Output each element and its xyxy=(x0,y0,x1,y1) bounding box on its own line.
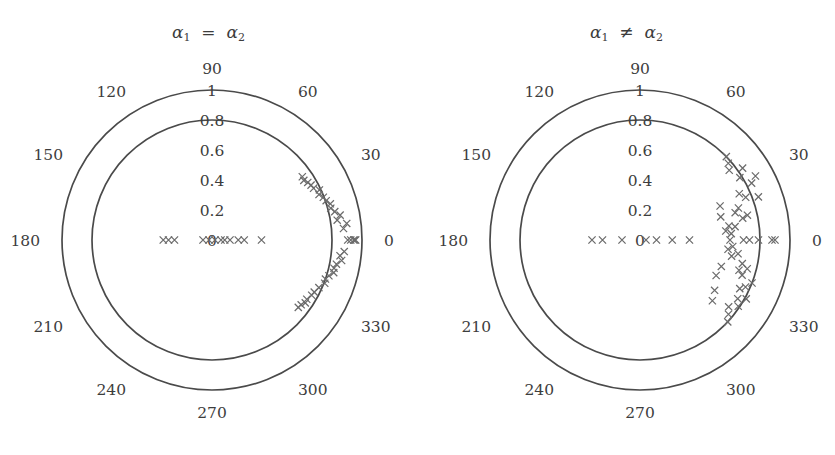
data-point-marker xyxy=(235,236,242,243)
angle-tick-330: 330 xyxy=(789,318,819,336)
radial-tick-0.2: 0.2 xyxy=(628,202,653,220)
angle-tick-90: 90 xyxy=(202,60,222,78)
data-point-marker xyxy=(744,265,751,272)
data-point-marker xyxy=(746,236,753,243)
data-point-marker xyxy=(327,200,334,207)
data-point-marker xyxy=(755,236,762,243)
polar-plot-left-svg: 030609012015018021024027030033000.20.40.… xyxy=(0,0,417,455)
data-point-marker xyxy=(725,311,732,318)
data-point-marker xyxy=(735,204,742,211)
radial-tick-1: 1 xyxy=(207,82,217,100)
data-point-marker xyxy=(740,236,747,243)
angle-tick-270: 270 xyxy=(625,404,655,422)
data-point-marker xyxy=(725,303,732,310)
data-point-marker xyxy=(718,263,725,270)
angle-tick-150: 150 xyxy=(33,146,63,164)
angle-tick-300: 300 xyxy=(298,381,328,399)
radial-tick-1: 1 xyxy=(635,82,645,100)
data-point-marker xyxy=(725,160,732,167)
angle-tick-0: 0 xyxy=(384,232,394,250)
radial-tick-0.6: 0.6 xyxy=(200,142,225,160)
data-point-marker xyxy=(258,236,265,243)
data-point-marker xyxy=(295,304,302,311)
data-point-marker xyxy=(717,213,724,220)
data-point-marker xyxy=(653,236,660,243)
data-point-marker xyxy=(732,209,739,216)
data-point-marker xyxy=(709,297,716,304)
angle-tick-60: 60 xyxy=(298,83,318,101)
scatter-series xyxy=(588,153,778,325)
data-point-marker xyxy=(669,236,676,243)
data-point-marker xyxy=(171,236,178,243)
angle-tick-0: 0 xyxy=(812,232,822,250)
angle-tick-90: 90 xyxy=(630,60,650,78)
polar-panel-right: α1 ≠ α2 03060901201501802102402703003300… xyxy=(418,0,835,455)
radial-tick-0: 0 xyxy=(635,232,645,250)
data-point-marker xyxy=(734,295,741,302)
data-point-marker xyxy=(686,236,693,243)
data-point-marker xyxy=(734,250,741,257)
data-point-marker xyxy=(755,193,762,200)
angle-tick-120: 120 xyxy=(96,83,126,101)
radial-tick-0.2: 0.2 xyxy=(200,202,225,220)
angle-tick-30: 30 xyxy=(361,146,381,164)
radial-tick-0.4: 0.4 xyxy=(200,172,225,190)
radial-tick-0.6: 0.6 xyxy=(628,142,653,160)
angle-tick-240: 240 xyxy=(524,381,554,399)
angle-tick-180: 180 xyxy=(438,232,468,250)
polar-panel-left: α1 = α2 03060901201501802102402703003300… xyxy=(0,0,417,455)
data-point-marker xyxy=(217,236,224,243)
data-point-marker xyxy=(742,283,749,290)
data-point-marker xyxy=(351,236,358,243)
data-point-marker xyxy=(736,285,743,292)
angle-tick-180: 180 xyxy=(10,232,40,250)
angle-tick-210: 210 xyxy=(461,318,491,336)
data-point-marker xyxy=(752,172,759,179)
data-point-marker xyxy=(742,194,749,201)
data-point-marker xyxy=(728,253,735,260)
data-point-marker xyxy=(736,190,743,197)
data-point-marker xyxy=(588,236,595,243)
angle-tick-240: 240 xyxy=(96,381,126,399)
data-point-marker xyxy=(160,236,167,243)
radial-tick-0.8: 0.8 xyxy=(200,112,225,130)
data-point-marker xyxy=(724,318,731,325)
data-point-marker xyxy=(726,236,733,243)
radial-tick-0.8: 0.8 xyxy=(628,112,653,130)
angle-tick-330: 330 xyxy=(361,318,391,336)
angle-tick-60: 60 xyxy=(726,83,746,101)
angle-tick-300: 300 xyxy=(726,381,756,399)
angle-tick-30: 30 xyxy=(789,146,809,164)
angle-tick-150: 150 xyxy=(461,146,491,164)
data-point-marker xyxy=(726,167,733,174)
scatter-series xyxy=(160,173,360,311)
angle-tick-270: 270 xyxy=(197,404,227,422)
data-point-marker xyxy=(618,236,625,243)
data-point-marker xyxy=(599,236,606,243)
data-point-marker xyxy=(723,153,730,160)
data-point-marker xyxy=(739,165,746,172)
data-point-marker xyxy=(226,236,233,243)
data-point-marker xyxy=(711,287,718,294)
data-point-marker xyxy=(713,272,720,279)
polar-scatter-figure: α1 = α2 03060901201501802102402703003300… xyxy=(0,0,835,455)
data-point-marker xyxy=(241,236,248,243)
polar-plot-right-svg: 030609012015018021024027030033000.20.40.… xyxy=(418,0,835,455)
angle-tick-120: 120 xyxy=(524,83,554,101)
data-point-marker xyxy=(716,202,723,209)
radial-tick-0.4: 0.4 xyxy=(628,172,653,190)
angle-tick-210: 210 xyxy=(33,318,63,336)
data-point-marker xyxy=(748,279,755,286)
data-point-marker xyxy=(308,292,315,299)
data-point-marker xyxy=(333,261,340,268)
data-point-marker xyxy=(748,180,755,187)
data-point-marker xyxy=(199,236,206,243)
